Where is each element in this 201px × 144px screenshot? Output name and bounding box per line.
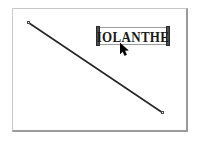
vector-layer: [0, 0, 201, 144]
text-object-iolanthe[interactable]: IOLANTHE: [97, 27, 169, 45]
line-handle-end[interactable]: [161, 111, 164, 114]
app-root: IOLANTHE: [0, 0, 201, 144]
line-handle-start[interactable]: [27, 21, 30, 24]
text-label: IOLANTHE: [102, 26, 164, 46]
